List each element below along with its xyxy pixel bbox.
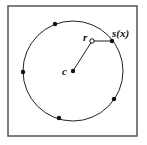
diagram-canvas: c r s(x): [0, 0, 147, 145]
label-s-x: s(x): [111, 27, 129, 40]
projection-point-s: [110, 39, 114, 43]
point-on-circle-1: [53, 22, 57, 26]
point-on-circle-2: [21, 70, 25, 74]
point-on-circle-4: [112, 97, 116, 101]
query-point-r: [90, 39, 94, 43]
segment-c-to-r: [73, 41, 92, 71]
point-on-circle-3: [57, 116, 61, 120]
center-point-c: [71, 69, 75, 73]
label-r: r: [83, 31, 88, 43]
label-c: c: [62, 65, 67, 77]
